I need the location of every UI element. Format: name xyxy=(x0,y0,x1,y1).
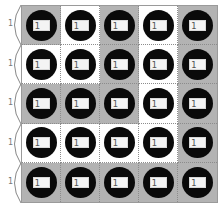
tile-label: 1 xyxy=(152,138,157,148)
circle-icon: 1 xyxy=(26,10,57,41)
card-icon: 1 xyxy=(111,98,128,109)
grid-cell[interactable]: 1 xyxy=(22,45,61,84)
row-bracket: 1 xyxy=(6,163,21,203)
tile-label: 1 xyxy=(191,99,196,109)
grid-cell[interactable]: 1 xyxy=(100,6,139,45)
tile-label: 1 xyxy=(113,138,118,148)
tile-label: 1 xyxy=(191,178,196,188)
grid-cell[interactable]: 1 xyxy=(100,84,139,123)
row-bracket: 1 xyxy=(6,5,21,45)
card-icon: 1 xyxy=(33,20,50,31)
tile-label: 1 xyxy=(74,21,79,31)
tile-label: 1 xyxy=(35,138,40,148)
card-icon: 1 xyxy=(72,98,89,109)
card-icon: 1 xyxy=(111,177,128,188)
tile-label: 1 xyxy=(152,178,157,188)
card-icon: 1 xyxy=(33,59,50,70)
card-icon: 1 xyxy=(150,137,167,148)
grid-cell[interactable]: 1 xyxy=(61,6,100,45)
grid-cell[interactable]: 1 xyxy=(139,45,178,84)
circle-icon: 1 xyxy=(65,10,96,41)
grid-cell[interactable]: 1 xyxy=(22,163,61,202)
tile-label: 1 xyxy=(152,99,157,109)
circle-icon: 1 xyxy=(143,167,174,198)
tile-label: 1 xyxy=(74,60,79,70)
grid-cell[interactable]: 1 xyxy=(22,84,61,123)
card-icon: 1 xyxy=(189,20,206,31)
grid-cell[interactable]: 1 xyxy=(139,163,178,202)
grid-cell[interactable]: 1 xyxy=(178,163,217,202)
circle-icon: 1 xyxy=(182,88,213,119)
card-icon: 1 xyxy=(111,20,128,31)
row-bracket-label: 1 xyxy=(8,177,13,186)
grid-cell[interactable]: 1 xyxy=(61,163,100,202)
card-icon: 1 xyxy=(189,177,206,188)
grid-cell[interactable]: 1 xyxy=(178,45,217,84)
tile-label: 1 xyxy=(113,21,118,31)
tile-label: 1 xyxy=(35,60,40,70)
card-icon: 1 xyxy=(150,59,167,70)
circle-icon: 1 xyxy=(65,49,96,80)
tile-label: 1 xyxy=(191,21,196,31)
tile-label: 1 xyxy=(113,99,118,109)
card-icon: 1 xyxy=(33,137,50,148)
tile-label: 1 xyxy=(113,60,118,70)
circle-icon: 1 xyxy=(143,127,174,158)
circle-icon: 1 xyxy=(26,88,57,119)
grid-cell[interactable]: 1 xyxy=(139,124,178,163)
card-icon: 1 xyxy=(150,98,167,109)
grid-cell[interactable]: 1 xyxy=(61,124,100,163)
card-icon: 1 xyxy=(72,20,89,31)
circle-icon: 1 xyxy=(182,10,213,41)
row-bracket-label: 1 xyxy=(8,19,13,28)
tile-label: 1 xyxy=(74,99,79,109)
circle-icon: 1 xyxy=(143,10,174,41)
circle-icon: 1 xyxy=(143,88,174,119)
card-icon: 1 xyxy=(150,177,167,188)
tile-label: 1 xyxy=(35,99,40,109)
circle-icon: 1 xyxy=(182,49,213,80)
tile-label: 1 xyxy=(152,60,157,70)
card-icon: 1 xyxy=(150,20,167,31)
tile-label: 1 xyxy=(191,138,196,148)
tile-label: 1 xyxy=(113,178,118,188)
tile-grid: 1111111111111111111111111 xyxy=(21,5,218,203)
card-icon: 1 xyxy=(189,98,206,109)
row-bracket: 1 xyxy=(6,45,21,85)
grid-cell[interactable]: 1 xyxy=(22,6,61,45)
tile-label: 1 xyxy=(74,138,79,148)
circle-icon: 1 xyxy=(104,127,135,158)
row-bracket-label: 1 xyxy=(8,138,13,147)
card-icon: 1 xyxy=(72,59,89,70)
grid-cell[interactable]: 1 xyxy=(100,45,139,84)
card-icon: 1 xyxy=(33,98,50,109)
circle-icon: 1 xyxy=(104,167,135,198)
grid-cell[interactable]: 1 xyxy=(61,84,100,123)
card-icon: 1 xyxy=(111,137,128,148)
card-icon: 1 xyxy=(33,177,50,188)
circle-icon: 1 xyxy=(26,49,57,80)
row-bracket: 1 xyxy=(6,84,21,124)
grid-cell[interactable]: 1 xyxy=(178,84,217,123)
grid-cell[interactable]: 1 xyxy=(139,6,178,45)
tile-label: 1 xyxy=(191,60,196,70)
grid-cell[interactable]: 1 xyxy=(100,124,139,163)
circle-icon: 1 xyxy=(26,167,57,198)
grid-cell[interactable]: 1 xyxy=(139,84,178,123)
circle-icon: 1 xyxy=(104,88,135,119)
grid-cell[interactable]: 1 xyxy=(22,124,61,163)
grid-cell[interactable]: 1 xyxy=(61,45,100,84)
tile-label: 1 xyxy=(35,178,40,188)
row-bracket-label: 1 xyxy=(8,59,13,68)
circle-icon: 1 xyxy=(104,10,135,41)
grid-cell[interactable]: 1 xyxy=(178,6,217,45)
circle-icon: 1 xyxy=(182,167,213,198)
grid-cell[interactable]: 1 xyxy=(100,163,139,202)
circle-icon: 1 xyxy=(182,127,213,158)
card-icon: 1 xyxy=(111,59,128,70)
row-bracket-label: 1 xyxy=(8,98,13,107)
circle-icon: 1 xyxy=(65,88,96,119)
tile-label: 1 xyxy=(152,21,157,31)
grid-cell[interactable]: 1 xyxy=(178,124,217,163)
row-bracket: 1 xyxy=(6,124,21,164)
